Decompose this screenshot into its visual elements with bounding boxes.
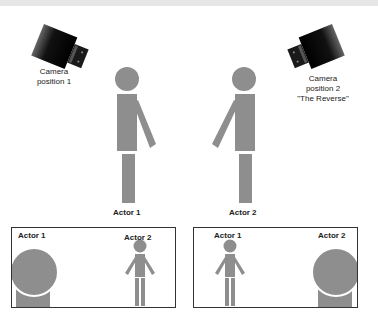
frame-1-foreground-figure <box>12 248 58 308</box>
camera-2-label: Camera position 2 "The Reverse" <box>278 74 368 104</box>
camera-2-label-line2: position 2 <box>278 84 368 94</box>
camera-2-label-line1: Camera <box>278 74 368 84</box>
frame-1-background-figure <box>125 240 155 307</box>
camera-1-label: Camera position 1 <box>9 67 99 87</box>
frame-2-foreground-figure <box>312 248 358 308</box>
frame-2-background-label: Actor 1 <box>214 231 242 241</box>
actor-1-label: Actor 1 <box>113 208 141 218</box>
frame-camera-1: Actor 1 Actor 2 <box>11 227 176 308</box>
camera-2-label-line3: "The Reverse" <box>278 94 368 104</box>
frame-2-foreground-label: Actor 2 <box>318 231 346 241</box>
actor-2-label: Actor 2 <box>229 208 257 218</box>
frame-1-background-label: Actor 2 <box>124 233 152 243</box>
camera-1-label-line2: position 1 <box>9 77 99 87</box>
frame-1-foreground-label: Actor 1 <box>18 231 46 241</box>
actor-1-figure <box>115 67 156 203</box>
camera-1-label-line1: Camera <box>9 67 99 77</box>
actor-2-figure <box>212 67 256 203</box>
frame-2-background-figure <box>215 240 245 307</box>
frame-camera-2: Actor 1 Actor 2 <box>193 227 358 308</box>
camera-2-icon <box>285 24 345 75</box>
